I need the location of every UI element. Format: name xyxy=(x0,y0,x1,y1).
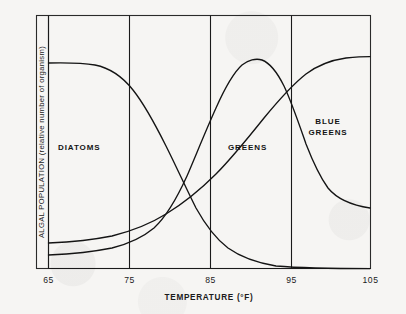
figure-outer-frame xyxy=(37,16,371,269)
x-tick-label-105: 105 xyxy=(363,275,379,285)
x-tick-label-95: 95 xyxy=(286,275,297,285)
x-tick-label-75: 75 xyxy=(124,275,135,285)
x-axis-title: TEMPERATURE (°F) xyxy=(165,293,254,302)
curve-diatoms xyxy=(49,63,371,269)
y-axis-title: ALGAL POPULATION (relative number of org… xyxy=(37,46,46,238)
series-label-blue-greens-line2: GREENS xyxy=(308,128,347,137)
x-tick-label-65: 65 xyxy=(43,275,54,285)
series-label-blue-greens-line1: BLUE xyxy=(315,117,340,126)
algal-population-temperature-chart: 65 75 85 95 105 TEMPERATURE (°F) ALGAL P… xyxy=(0,0,406,314)
series-label-diatoms: DIATOMS xyxy=(58,143,100,152)
curve-greens xyxy=(49,59,371,255)
x-tick-label-85: 85 xyxy=(205,275,216,285)
series-label-greens: GREENS xyxy=(228,143,267,152)
figure-page: 65 75 85 95 105 TEMPERATURE (°F) ALGAL P… xyxy=(0,0,406,314)
